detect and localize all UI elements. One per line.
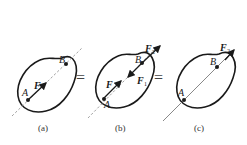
equals-sign: =: [76, 69, 85, 86]
point-B-label: B: [210, 56, 216, 67]
panel-b: A B F F 1 F 2 (b): [88, 43, 160, 133]
point-A-dot: [182, 98, 186, 102]
point-A-dot: [26, 98, 30, 102]
point-B-label: B: [59, 54, 65, 65]
caption-a: (a): [38, 123, 48, 133]
force-F2-subscript: 2: [152, 49, 155, 55]
force-F2-label: F: [219, 42, 227, 53]
caption-b: (b): [115, 123, 126, 133]
force-F-label: F: [33, 80, 41, 91]
force-F2-subscript: 2: [227, 48, 230, 54]
equals-sign: =: [154, 69, 163, 86]
point-A-label: A: [177, 87, 185, 98]
panel-c: A B F 2 (c): [163, 42, 235, 133]
force-transmissibility-diagram: A B F (a) = A B F F 1 F 2 (b) = A B F 2 …: [0, 0, 247, 145]
panel-a: A B F (a): [12, 48, 82, 133]
force-F1-subscript: 1: [144, 81, 147, 87]
force-F2-label: F: [144, 43, 152, 54]
line-of-action: [163, 52, 232, 121]
point-A-label: A: [21, 87, 29, 98]
force-F1-label: F: [136, 75, 144, 86]
caption-c: (c): [194, 123, 204, 133]
point-B-label: B: [135, 54, 141, 65]
point-A-label: A: [103, 99, 111, 110]
force-F-label: F: [105, 79, 113, 90]
